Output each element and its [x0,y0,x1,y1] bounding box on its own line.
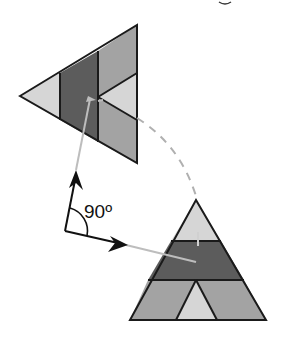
horizontal-arrow-shaft [65,231,118,243]
top-light-region [171,200,221,241]
arrowhead-right-icon [108,236,128,252]
cutoff-text-fragment [219,2,231,4]
upright-triangle [130,200,266,320]
vertical-arrow-shaft [65,180,75,231]
rotation-diagram [0,0,281,339]
dark-band [60,51,98,142]
dashed-rotation-arc [137,118,196,196]
guide-line [98,100,103,101]
arrowhead-up-icon [69,170,83,190]
rotated-triangle [20,25,137,163]
left-tip-light-region [20,73,60,120]
angle-label: 90º [84,201,112,223]
